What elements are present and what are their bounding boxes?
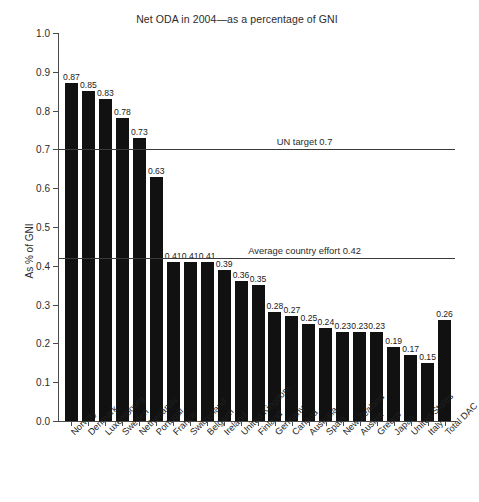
bar-value-label: 0.83: [97, 88, 114, 98]
bar-value-label: 0.23: [368, 321, 385, 331]
bar-value-label: 0.63: [148, 166, 165, 176]
x-tick: [445, 421, 446, 426]
bar-value-label: 0.26: [436, 309, 453, 319]
bar-value-label: 0.78: [114, 107, 131, 117]
y-tick-label: 0.5: [36, 222, 50, 233]
y-tick: [53, 188, 59, 189]
y-tick-label: 1.0: [36, 28, 50, 39]
y-tick-label: 0.1: [36, 377, 50, 388]
y-tick: [53, 72, 59, 73]
bar: [336, 332, 349, 421]
bar-value-label: 0.41: [182, 251, 199, 261]
x-tick: [394, 421, 395, 426]
bar-value-label: 0.23: [351, 321, 368, 331]
y-tick: [53, 111, 59, 112]
x-tick: [428, 421, 429, 426]
bar-value-label: 0.39: [216, 259, 233, 269]
y-tick: [53, 305, 59, 306]
x-tick: [411, 421, 412, 426]
bar: [133, 138, 146, 421]
y-tick-label: 0.3: [36, 299, 50, 310]
bar-value-label: 0.36: [233, 270, 250, 280]
bar: [201, 262, 214, 421]
y-tick-label: 0.9: [36, 66, 50, 77]
x-tick: [360, 421, 361, 426]
bar-value-label: 0.27: [284, 305, 301, 315]
bar-value-label: 0.23: [334, 321, 351, 331]
bar-value-label: 0.85: [80, 80, 97, 90]
reference-line: [59, 258, 455, 259]
x-tick: [292, 421, 293, 426]
bar-value-label: 0.41: [199, 251, 216, 261]
bar: [235, 281, 248, 421]
bar-value-label: 0.41: [165, 251, 182, 261]
reference-line: [59, 149, 455, 150]
bar-value-label: 0.25: [300, 313, 317, 323]
plot-area: 0.00.10.20.30.40.50.60.70.80.91.0 0.870.…: [59, 33, 455, 421]
y-tick-label: 0.0: [36, 416, 50, 427]
bar: [65, 83, 78, 421]
bar: [302, 324, 315, 421]
x-tick: [343, 421, 344, 426]
x-tick: [377, 421, 378, 426]
bar: [82, 91, 95, 421]
bar: [184, 262, 197, 421]
bar: [404, 355, 417, 421]
bar-value-label: 0.28: [267, 301, 284, 311]
y-axis-label: As % of GNI: [24, 223, 35, 278]
bar: [150, 177, 163, 421]
y-tick: [53, 421, 59, 422]
bar: [252, 285, 265, 421]
bar-value-label: 0.87: [63, 72, 80, 82]
y-tick: [53, 33, 59, 34]
reference-line-label: Average country effort 0.42: [248, 245, 361, 256]
y-tick-label: 0.2: [36, 338, 50, 349]
x-tick: [309, 421, 310, 426]
y-tick: [53, 266, 59, 267]
y-tick: [53, 343, 59, 344]
bar-value-label: 0.19: [385, 336, 402, 346]
y-tick: [53, 382, 59, 383]
bar-value-label: 0.73: [131, 127, 148, 137]
bar: [116, 118, 129, 421]
bar-value-label: 0.17: [402, 344, 419, 354]
y-tick-label: 0.6: [36, 183, 50, 194]
y-tick: [53, 227, 59, 228]
chart-title: Net ODA in 2004—as a percentage of GNI: [0, 13, 474, 25]
bar: [99, 99, 112, 421]
reference-line-label: UN target 0.7: [277, 136, 333, 147]
bar-value-label: 0.35: [250, 274, 267, 284]
x-tick: [326, 421, 327, 426]
y-tick-label: 0.7: [36, 144, 50, 155]
y-tick-label: 0.4: [36, 260, 50, 271]
bar-value-label: 0.24: [317, 317, 334, 327]
y-tick-label: 0.8: [36, 105, 50, 116]
bar-value-label: 0.15: [419, 352, 436, 362]
